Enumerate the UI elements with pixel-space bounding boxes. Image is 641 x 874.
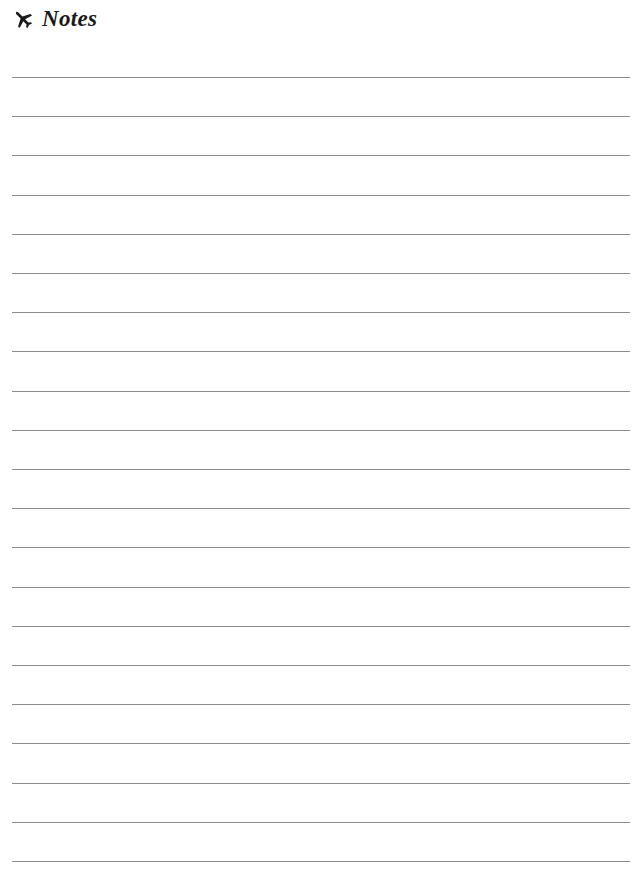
ruled-line <box>12 822 630 823</box>
ruled-line <box>12 469 630 470</box>
ruled-line <box>12 77 630 78</box>
ruled-line <box>12 234 630 235</box>
ruled-line <box>12 195 630 196</box>
ruled-line <box>12 704 630 705</box>
ruled-line <box>12 312 630 313</box>
ruled-line <box>12 587 630 588</box>
ruled-line <box>12 351 630 352</box>
ruled-line <box>12 430 630 431</box>
ruled-line <box>12 783 630 784</box>
ruled-line <box>12 861 630 862</box>
ruled-line <box>12 155 630 156</box>
ruled-line <box>12 116 630 117</box>
ruled-lines-area[interactable] <box>12 0 630 874</box>
ruled-line <box>12 547 630 548</box>
ruled-line <box>12 391 630 392</box>
ruled-line <box>12 626 630 627</box>
ruled-line <box>12 508 630 509</box>
ruled-line <box>12 743 630 744</box>
ruled-line <box>12 665 630 666</box>
ruled-line <box>12 273 630 274</box>
